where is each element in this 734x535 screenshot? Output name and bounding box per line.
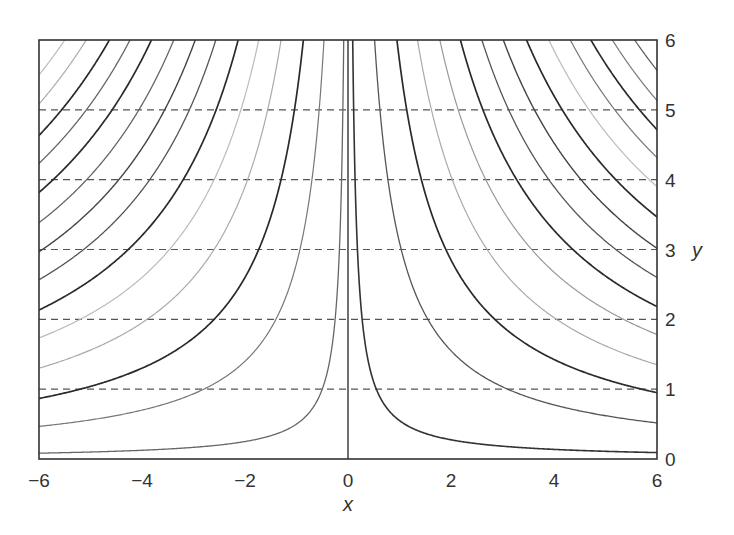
contour-curve bbox=[472, 5, 663, 280]
y-tick-labels: 0123456 bbox=[665, 30, 676, 470]
contour-curve bbox=[592, 5, 662, 106]
y-tick-label: 0 bbox=[665, 449, 676, 470]
y-tick-label: 5 bbox=[665, 100, 676, 121]
contour-curve bbox=[34, 5, 247, 312]
contour-curve bbox=[34, 5, 344, 453]
contour-curve bbox=[352, 5, 662, 453]
y-tick-label: 6 bbox=[665, 30, 676, 51]
contour-curve bbox=[34, 5, 286, 370]
hyperbola-contour-chart: −6−4−20246 0123456 x y bbox=[0, 0, 734, 535]
y-axis-label: y bbox=[690, 239, 703, 261]
contour-curve bbox=[613, 5, 663, 77]
x-axis-label: x bbox=[342, 493, 354, 515]
y-tick-label: 2 bbox=[665, 309, 676, 330]
contour-curve bbox=[34, 5, 307, 399]
contour-curve bbox=[34, 5, 107, 110]
x-tick-label: −4 bbox=[131, 470, 153, 491]
x-tick-labels: −6−4−20246 bbox=[28, 470, 662, 491]
contour-curve bbox=[393, 5, 662, 394]
contour-curve bbox=[34, 5, 128, 141]
contour-curve bbox=[34, 5, 326, 427]
x-tick-label: 6 bbox=[652, 470, 663, 491]
contour-curve bbox=[572, 5, 662, 135]
x-tick-label: 2 bbox=[446, 470, 457, 491]
contour-curve bbox=[452, 5, 662, 309]
contour-curve bbox=[513, 5, 662, 221]
contour-curve bbox=[34, 5, 167, 197]
contour-curve bbox=[34, 5, 207, 255]
y-tick-label: 1 bbox=[665, 379, 676, 400]
y-tick-label: 4 bbox=[665, 170, 676, 191]
contour-curve bbox=[553, 5, 662, 162]
contour-curve bbox=[34, 5, 87, 81]
x-tick-label: 4 bbox=[549, 470, 560, 491]
contour-curve bbox=[533, 5, 662, 191]
contour-curve bbox=[373, 5, 663, 423]
x-tick-label: 0 bbox=[343, 470, 354, 491]
y-tick-label: 3 bbox=[665, 240, 676, 261]
contour-curve bbox=[34, 5, 226, 283]
contour-curve bbox=[34, 5, 266, 340]
contour-curve bbox=[34, 5, 147, 168]
x-tick-label: −2 bbox=[234, 470, 256, 491]
x-tick-label: −6 bbox=[28, 470, 50, 491]
